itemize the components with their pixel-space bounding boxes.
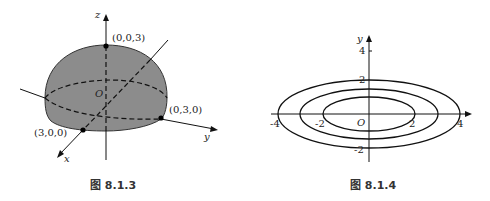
x-tick-2: 2 <box>409 119 415 129</box>
y-axis-label: y <box>204 132 210 142</box>
figure-hemisphere: z y x O (0,0,3) (0,3,0) (3,0,0) 图 8.1.3 <box>0 0 245 201</box>
z-axis-label: z <box>95 10 100 20</box>
y-tick-neg2: -2 <box>354 145 364 155</box>
point-3-0-0 <box>80 127 85 132</box>
point-0-0-3 <box>103 43 108 48</box>
origin-label: O <box>357 118 365 128</box>
x-tick-neg4: -4 <box>270 119 280 129</box>
ellipse-diagram <box>245 0 490 201</box>
origin-label: O <box>95 89 103 99</box>
x-axis-label: x <box>64 154 70 164</box>
y-axis-label: y <box>357 34 363 44</box>
point-label-0-0-3: (0,0,3) <box>112 33 145 43</box>
figure-ellipses: y 4 2 -2 -4 -2 2 4 O 图 8.1.4 <box>245 0 490 201</box>
hemisphere-diagram <box>0 0 245 201</box>
point-0-3-0 <box>158 115 163 120</box>
point-label-0-3-0: (0,3,0) <box>169 105 202 115</box>
x-tick-4: 4 <box>457 119 463 129</box>
figure-caption: 图 8.1.3 <box>90 176 136 192</box>
y-tick-2: 2 <box>359 75 365 85</box>
x-tick-neg2: -2 <box>315 119 325 129</box>
y-tick-4: 4 <box>359 46 365 56</box>
point-label-3-0-0: (3,0,0) <box>34 128 67 138</box>
figure-caption: 图 8.1.4 <box>350 176 396 192</box>
